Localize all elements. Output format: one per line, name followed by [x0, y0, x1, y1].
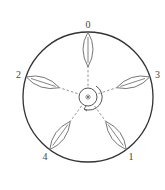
leaf-4: [50, 106, 82, 150]
petiole-line: [59, 88, 77, 94]
phyllotaxis-diagram: 01234: [0, 0, 165, 190]
leaf-label-2: 2: [16, 69, 21, 80]
leaf-3: [98, 76, 149, 94]
leaf-label-3: 3: [155, 69, 160, 80]
leaf-label-0: 0: [86, 19, 91, 30]
leaf-label-1: 1: [128, 151, 133, 162]
spiral-arrow-icon: [84, 106, 87, 111]
leaf-1: [94, 106, 126, 150]
leaves-group: [26, 32, 150, 150]
center-stem: [79, 86, 102, 111]
leaf-2: [26, 76, 77, 94]
apex-star-icon: [85, 94, 91, 100]
leaf-label-4: 4: [43, 151, 48, 162]
petiole-line: [70, 106, 81, 121]
leaf-0: [83, 32, 93, 86]
